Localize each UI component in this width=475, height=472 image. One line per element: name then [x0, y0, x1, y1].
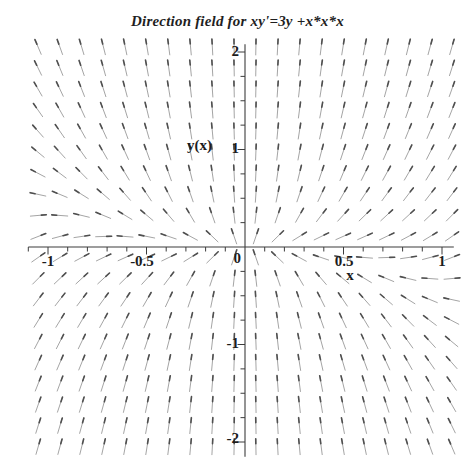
direction-field-canvas — [0, 0, 475, 472]
x-tick-label-1: 1 — [430, 254, 454, 269]
x-tick-label-neg05: -0.5 — [122, 254, 162, 269]
y-tick-label-neg1: -1 — [205, 336, 239, 351]
y-tick-label-neg2: -2 — [205, 431, 239, 446]
x-axis-label: x — [340, 268, 360, 283]
y-axis-label: y(x) — [187, 138, 212, 153]
direction-field-figure: Direction field for xy'=3y +x*x*x y(x) x… — [0, 0, 475, 472]
x-tick-label-05: 0.5 — [324, 254, 364, 269]
x-tick-label-neg1: -1 — [36, 254, 60, 269]
y-tick-label-1: 1 — [211, 141, 239, 156]
y-tick-label-2: 2 — [211, 44, 239, 59]
origin-label: 0 — [227, 251, 241, 266]
